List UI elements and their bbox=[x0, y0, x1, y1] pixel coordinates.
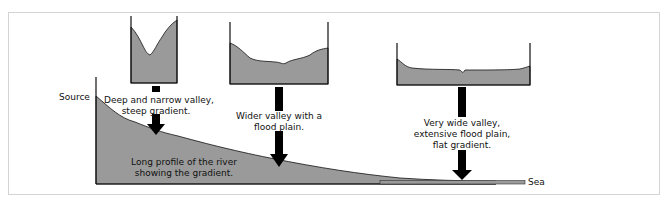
stage-upper-line2: steep gradient. bbox=[104, 106, 208, 117]
stage-lower-label: Very wide valley, extensive flood plain,… bbox=[402, 118, 522, 151]
arrow-middle-stem bbox=[275, 131, 283, 156]
stage-upper-label: Deep and narrow valley, steep gradient. bbox=[104, 95, 208, 117]
stage-middle-label: Wider valley with a flood plain. bbox=[229, 111, 329, 133]
arrow-lower-head bbox=[452, 170, 472, 180]
river-profile-diagram bbox=[0, 0, 668, 201]
sea-label: Sea bbox=[528, 177, 545, 188]
sea-level-bar bbox=[380, 181, 525, 185]
cross-section-middle bbox=[230, 22, 328, 167]
stage-middle-line1: Wider valley with a bbox=[229, 111, 329, 122]
profile-label-line2: showing the gradient. bbox=[124, 168, 244, 179]
cross-section-upper bbox=[131, 16, 177, 135]
stage-upper-line1: Deep and narrow valley, bbox=[104, 95, 208, 106]
arrow-lower-stem bbox=[458, 150, 466, 172]
stage-lower-line3: flat gradient. bbox=[402, 140, 522, 151]
stage-middle-line2: flood plain. bbox=[229, 122, 329, 133]
stage-lower-line1: Very wide valley, bbox=[402, 118, 522, 129]
stage-lower-line2: extensive flood plain, bbox=[402, 129, 522, 140]
arrow-lower-stem-top bbox=[458, 87, 466, 117]
arrow-upper-stem-top bbox=[152, 86, 160, 92]
source-label: Source bbox=[59, 92, 90, 103]
profile-label-line1: Long profile of the river bbox=[124, 157, 244, 168]
cross-section-lower bbox=[397, 43, 530, 180]
arrow-middle-stem-top bbox=[275, 87, 283, 111]
profile-label: Long profile of the river showing the gr… bbox=[124, 157, 244, 179]
